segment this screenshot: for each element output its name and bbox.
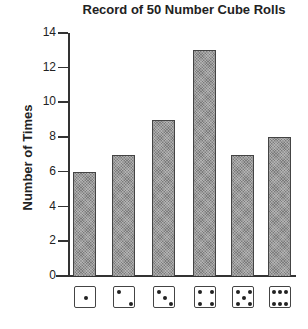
y-tick-label: 4 [36,199,56,213]
y-tick [58,206,68,208]
pip [84,296,88,300]
die-face-3-icon [153,286,175,308]
y-tick [58,136,68,138]
die-face-6-icon [269,286,291,308]
y-tick-label: 8 [36,129,56,143]
y-tick [58,171,68,173]
y-tick [58,275,68,277]
pip [272,302,276,306]
pip [163,296,167,300]
pip [117,290,121,294]
y-tick-label: 0 [36,268,56,282]
die-face-4-icon [194,286,216,308]
pip [242,296,246,300]
pip [236,290,240,294]
y-axis-line [68,33,70,276]
bar-2 [112,155,135,277]
bar-3 [152,120,175,276]
pip [198,290,202,294]
y-tick [58,101,68,103]
die-face-5-icon [232,286,254,308]
y-tick [58,67,68,69]
pip [210,302,214,306]
y-axis-label: Number of Times [20,103,35,213]
y-tick-label: 14 [36,25,56,39]
pip [248,302,252,306]
pip [278,302,282,306]
bar-4 [193,50,216,276]
pip [157,290,161,294]
pip [198,302,202,306]
y-tick-label: 10 [36,94,56,108]
pip [272,290,276,294]
chart-title: Record of 50 Number Cube Rolls [0,2,308,17]
pip [236,302,240,306]
pip [210,290,214,294]
bar-6 [268,137,291,276]
y-tick-label: 12 [36,60,56,74]
bar-1 [73,172,96,276]
pip [284,302,288,306]
bar-5 [231,155,254,277]
y-tick-label: 2 [36,233,56,247]
die-face-2-icon [113,286,135,308]
y-tick [58,240,68,242]
pip [248,290,252,294]
pip [284,290,288,294]
pip [169,302,173,306]
pip [129,302,133,306]
y-tick [58,32,68,34]
pip [278,290,282,294]
die-face-1-icon [74,286,96,308]
y-tick-label: 6 [36,164,56,178]
